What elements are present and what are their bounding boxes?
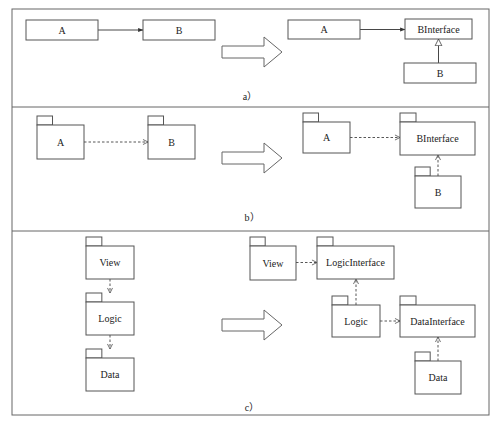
package-tab [400,296,416,305]
package-logic: Logic [86,293,134,335]
class-b: B [143,20,215,40]
node-label: A [58,25,66,36]
package-tab [250,237,265,246]
package-binterface: BInterface [400,113,475,155]
node-label: B [435,187,442,198]
class-b: B [404,63,476,83]
node-label: LogicInterface [326,257,385,268]
package-tab [400,113,416,122]
package-b: B [415,167,461,208]
panel-c-caption: c） [245,402,259,413]
transform-arrow-icon [222,143,282,173]
package-tab [86,293,102,302]
package-tab [86,349,102,358]
panel-b-caption: b） [245,212,260,223]
node-label: DataInterface [410,316,465,327]
package-data: Data [415,352,461,394]
package-b: B [148,116,195,159]
package-datainterface: DataInterface [400,296,475,337]
node-label: A [57,137,65,148]
transform-arrow-icon [222,37,282,67]
package-data: Data [86,349,134,391]
package-tab [415,352,430,361]
node-label: Data [101,369,120,380]
panel-a-caption: a） [243,91,257,102]
package-tab [332,296,348,305]
package-logic: Logic [332,296,380,337]
package-tab [303,113,319,122]
package-logicinterface: LogicInterface [317,237,394,279]
diagram-canvas: ABABInterfaceBABABInterfaceBViewLogicDat… [0,0,495,429]
node-label: BInterface [417,24,460,35]
class-a: A [288,20,360,39]
node-label: A [323,132,331,143]
package-tab [86,237,102,246]
node-label: Data [429,372,448,383]
package-tab [415,167,430,176]
class-binterface: BInterface [405,19,472,39]
node-label: B [168,137,175,148]
package-tab [317,237,333,246]
package-a: A [37,116,84,159]
package-tab [37,116,53,125]
node-label: View [262,258,284,269]
node-label: B [176,25,183,36]
node-label: View [99,257,121,268]
package-tab [148,116,164,125]
node-label: Logic [344,316,368,327]
node-label: Logic [98,313,122,324]
transform-arrow-icon [222,310,282,340]
node-label: A [320,24,328,35]
node-label: BInterface [416,133,459,144]
node-label: B [437,68,444,79]
package-a: A [303,113,350,153]
package-view: View [86,237,134,279]
class-a: A [26,20,98,40]
package-view: View [250,237,296,280]
